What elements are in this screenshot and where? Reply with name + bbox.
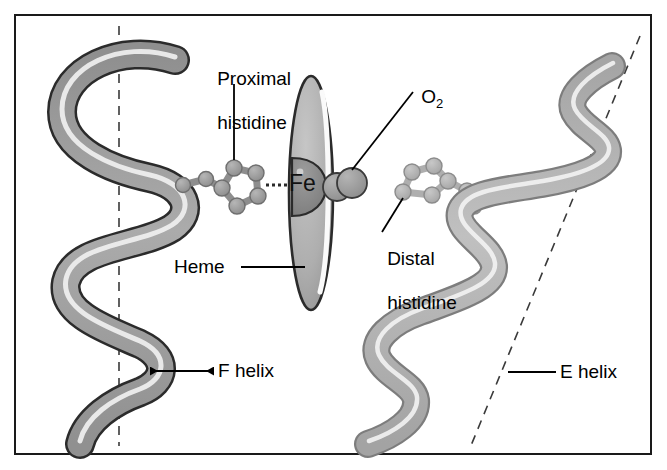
atom-distal-ring-1 (395, 184, 411, 200)
proximal-histidine-label-line1: Proximal (217, 68, 291, 89)
iron-label: Fe (289, 172, 316, 194)
atom-proximal-ring-3 (248, 165, 264, 181)
heme-label: Heme (174, 256, 225, 278)
atom-proximal-ring-4 (250, 188, 266, 204)
atom-proximal-ring-2 (226, 160, 242, 176)
atom-distal-ring-2 (404, 164, 420, 180)
distal-histidine-label: Distal histidine (366, 226, 457, 336)
atom-proximal-1 (176, 178, 191, 193)
distal-histidine-label-line1: Distal (387, 248, 435, 269)
oxygen-label-subscript: 2 (436, 96, 443, 111)
proximal-histidine-label-line2: histidine (217, 112, 287, 133)
atom-distal-ring-4 (440, 173, 456, 189)
atom-proximal-2 (199, 172, 214, 187)
atom-proximal-ring-5 (229, 198, 245, 214)
figure-canvas: Proximal histidine O2 Heme Distal histid… (0, 0, 667, 470)
oxygen-label-symbol: O (421, 86, 436, 107)
atom-proximal-ring-1 (214, 180, 230, 196)
oxygen-atom-2 (337, 168, 367, 198)
diagram-svg (0, 0, 667, 470)
proximal-histidine-label: Proximal histidine (196, 46, 291, 156)
atom-distal-ring-5 (424, 187, 440, 203)
e-helix-label: E helix (560, 361, 617, 383)
f-helix-label: F helix (218, 360, 274, 382)
f-helix-ribbon (62, 51, 185, 444)
atom-distal-ring-3 (426, 158, 442, 174)
distal-histidine-label-line2: histidine (387, 292, 457, 313)
oxygen-label: O2 (400, 64, 443, 137)
